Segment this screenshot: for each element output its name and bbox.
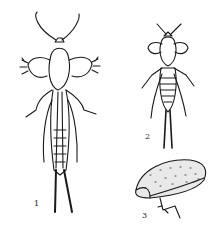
panel-label-3: 3: [142, 212, 147, 220]
egg-chamber-drawing: [136, 160, 206, 218]
panel-label-2: 2: [145, 133, 150, 141]
illustration-drawing: [0, 0, 218, 236]
panel-label-1: 1: [34, 200, 39, 208]
nymph-cricket-drawing: [142, 24, 194, 148]
adult-cricket-drawing: [20, 12, 100, 212]
mole-cricket-figure: 1 2 3: [0, 0, 218, 236]
